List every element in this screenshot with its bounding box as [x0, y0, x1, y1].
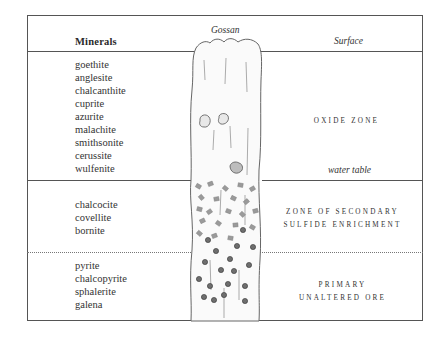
- mineral-item: chalcanthite: [75, 84, 126, 97]
- oxide-minerals-list: goethite anglesite chalcanthite cuprite …: [75, 58, 126, 175]
- zone-name-line: UNALTERED ORE: [262, 292, 423, 305]
- mineral-item: malachite: [75, 123, 126, 136]
- primary-minerals-list: pyrite chalcopyrite sphalerite galena: [75, 259, 127, 311]
- mineral-item: galena: [75, 298, 127, 311]
- mineral-item: bornite: [75, 224, 118, 237]
- zone-name-line: ZONE OF SECONDARY: [262, 206, 423, 219]
- mineral-item: chalcocite: [75, 198, 118, 211]
- mineral-item: sphalerite: [75, 285, 127, 298]
- mineral-item: cerussite: [75, 149, 126, 162]
- zone-name-line: SULFIDE ENRICHMENT: [262, 219, 423, 232]
- mineral-item: chalcopyrite: [75, 272, 127, 285]
- minerals-heading: Minerals: [75, 36, 117, 47]
- zone-name-line: PRIMARY: [262, 279, 423, 292]
- mineral-item: covellite: [75, 211, 118, 224]
- gossan-label: Gossan: [211, 25, 240, 35]
- secondary-zone-label: ZONE OF SECONDARY SULFIDE ENRICHMENT: [262, 206, 423, 232]
- mineral-item: goethite: [75, 58, 126, 71]
- oxide-zone-label: OXIDE ZONE: [270, 115, 423, 128]
- secondary-minerals-list: chalcocite covellite bornite: [75, 198, 118, 237]
- surface-label: Surface: [334, 36, 363, 46]
- mineral-item: wulfenite: [75, 162, 126, 175]
- mineral-item: smithsonite: [75, 136, 126, 149]
- mineral-item: pyrite: [75, 259, 127, 272]
- water-table-label: water table: [328, 165, 371, 175]
- mineral-item: cuprite: [75, 97, 126, 110]
- primary-zone-label: PRIMARY UNALTERED ORE: [262, 279, 423, 305]
- mineral-item: azurite: [75, 110, 126, 123]
- mineral-item: anglesite: [75, 71, 126, 84]
- zone-name-line: OXIDE ZONE: [270, 115, 423, 128]
